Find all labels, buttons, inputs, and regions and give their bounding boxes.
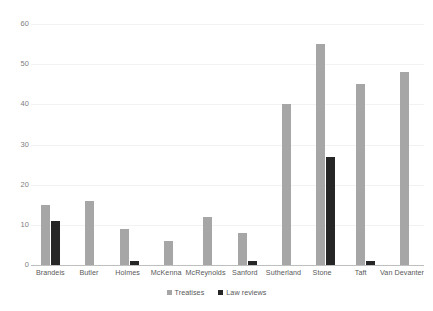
bar [356,84,365,265]
bar-group [227,24,266,265]
bar [400,72,409,265]
bar-group [149,24,188,265]
x-tick-label: Van Devanter [380,267,424,281]
legend-swatch-icon [167,290,172,295]
bar [282,104,291,265]
legend-label: Law reviews [226,288,266,297]
bar-groups [31,24,424,265]
x-tick-label: Taft [341,267,380,281]
y-tick-label: 60 [3,20,29,28]
bar [51,221,60,265]
bar-group [345,24,384,265]
bar [326,157,335,265]
x-tick-label: Brandeis [31,267,70,281]
x-tick-label: McKenna [147,267,186,281]
bar-group [267,24,306,265]
x-tick-label: Holmes [108,267,147,281]
y-tick-label: 40 [3,100,29,108]
category-axis-line [31,265,424,266]
legend-swatch-icon [218,290,223,295]
x-tick-label: Butler [70,267,109,281]
x-tick-label: Stone [303,267,342,281]
bar [130,261,139,265]
legend-item[interactable]: Law reviews [218,288,266,297]
y-tick-label: 0 [3,261,29,269]
x-tick-label: Sutherland [264,267,303,281]
bar-group [306,24,345,265]
y-axis: 6050403020100 [0,0,29,311]
legend-label: Treatises [175,288,205,297]
bar [366,261,375,265]
x-tick-label: Sanford [226,267,265,281]
bar-group [385,24,424,265]
bar [41,205,50,265]
bar [164,241,173,265]
bar [120,229,129,265]
bar [85,201,94,265]
bar [203,217,212,265]
bar-group [110,24,149,265]
bar-group [188,24,227,265]
chart-legend: TreatisesLaw reviews [0,288,433,297]
y-tick-label: 10 [3,221,29,229]
x-axis: BrandeisButlerHolmesMcKennaMcReynoldsSan… [31,267,424,281]
bar-group [31,24,70,265]
y-tick-label: 30 [3,141,29,149]
bar [238,233,247,265]
x-tick-label: McReynolds [186,267,226,281]
bar-group [70,24,109,265]
bar [316,44,325,265]
y-tick-label: 50 [3,60,29,68]
y-tick-label: 20 [3,181,29,189]
legend-item[interactable]: Treatises [167,288,205,297]
bar [248,261,257,265]
bar-chart: 6050403020100 BrandeisButlerHolmesMcKenn… [0,0,433,311]
